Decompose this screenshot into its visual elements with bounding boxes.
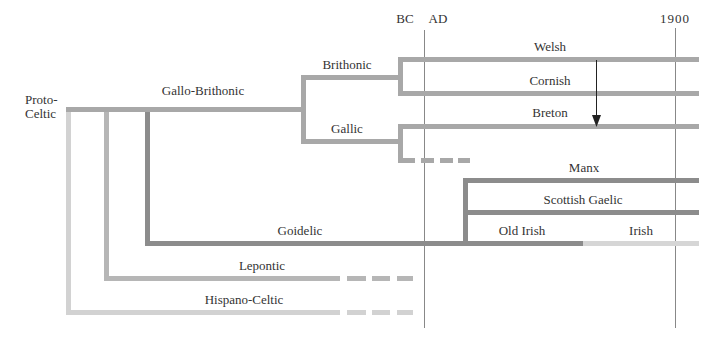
node-old-irish: Old Irish: [499, 224, 546, 238]
branch-lepontic: [104, 108, 413, 281]
branch-irish: [583, 241, 699, 246]
node-welsh: Welsh: [534, 40, 566, 54]
node-cornish: Cornish: [529, 74, 570, 88]
branch-gallo-brithonic: [66, 57, 699, 163]
node-breton: Breton: [532, 106, 567, 120]
node-brithonic: Brithonic: [322, 58, 371, 72]
node-proto-celtic-line1: Proto-: [25, 93, 58, 107]
node-hispano-celtic: Hispano-Celtic: [205, 293, 284, 307]
year-1900-label: 1900: [660, 12, 690, 26]
node-gallic: Gallic: [331, 122, 363, 136]
node-lepontic: Lepontic: [239, 259, 285, 273]
node-proto-celtic-line2: Celtic: [25, 107, 56, 121]
node-scottish-gaelic: Scottish Gaelic: [543, 193, 622, 207]
bc-label: BC: [396, 12, 413, 26]
node-manx: Manx: [569, 161, 599, 175]
ad-label: AD: [429, 12, 448, 26]
node-goidelic: Goidelic: [278, 224, 323, 238]
language-tree-diagram: [0, 0, 721, 340]
node-irish: Irish: [629, 224, 653, 238]
node-gallo-brithonic: Gallo-Brithonic: [162, 84, 244, 98]
